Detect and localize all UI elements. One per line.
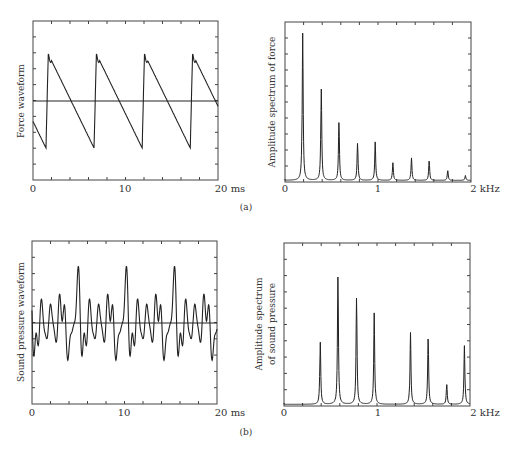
sound-spectrum-ylabel-1: Amplitude spectrum: [254, 277, 264, 371]
force-spectrum-frame: [285, 22, 471, 182]
sound-spectrum-line: [284, 277, 470, 404]
x-tick-0: 0: [29, 407, 35, 418]
force-waveform-ylabel: Force waveform: [16, 64, 26, 138]
x-tick-20: 20 ms: [215, 183, 246, 194]
panel-b: Sound pressure waveform 0 10 20 ms Ampli…: [16, 241, 500, 437]
k-tick-1: 1: [375, 183, 381, 194]
figure: Force waveform 0 10 20 ms Amplitude spec…: [0, 0, 513, 451]
k-tick-0: 0: [281, 407, 287, 418]
k-tick-0: 0: [282, 183, 288, 194]
sound-waveform-line: [32, 267, 217, 361]
sound-spectrum-ylabel-2: of sound pressure: [267, 283, 277, 365]
panel-b-label: (b): [240, 427, 253, 437]
x-tick-10: 10: [119, 183, 132, 194]
sound-waveform-chart: Sound pressure waveform 0 10 20 ms: [16, 241, 245, 418]
x-tick-10: 10: [118, 407, 131, 418]
sound-spectrum-frame: [284, 243, 470, 406]
k-tick-2: 2 kHz: [470, 407, 500, 418]
force-spectrum-ylabel: Amplitude spectrum of force: [267, 37, 277, 169]
sound-waveform-ylabel: Sound pressure waveform: [16, 262, 26, 382]
panel-a-label: (a): [240, 202, 252, 212]
k-tick-2: 2 kHz: [470, 183, 500, 194]
x-tick-20: 20 ms: [215, 407, 246, 418]
k-tick-1: 1: [375, 407, 381, 418]
sound-spectrum-chart: Amplitude spectrum of sound pressure 0 1…: [254, 243, 500, 418]
force-spectrum-chart: Amplitude spectrum of force 0 1 2 kHz: [267, 22, 500, 194]
panel-a: Force waveform 0 10 20 ms Amplitude spec…: [16, 21, 500, 212]
force-waveform-chart: Force waveform 0 10 20 ms: [16, 21, 245, 194]
force-spectrum-line: [285, 33, 471, 180]
x-tick-0: 0: [30, 183, 36, 194]
